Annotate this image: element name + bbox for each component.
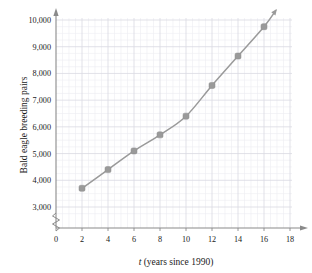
data-point-marker (209, 82, 215, 88)
data-point-marker (79, 185, 85, 191)
y-tick-label: 7,000 (33, 96, 51, 105)
x-tick-label: 10 (182, 235, 190, 244)
x-tick-label: 4 (106, 235, 110, 244)
chart-background (0, 0, 312, 273)
data-point-marker (235, 53, 241, 59)
data-point-marker (131, 148, 137, 154)
y-tick-label: 8,000 (33, 69, 51, 78)
y-tick-label: 5,000 (33, 150, 51, 159)
y-tick-label: 4,000 (33, 176, 51, 185)
y-tick-label: 9,000 (33, 43, 51, 52)
data-point-marker (261, 24, 267, 30)
data-point-marker (157, 132, 163, 138)
x-tick-label: 6 (132, 235, 136, 244)
y-tick-label: 10,000 (28, 16, 51, 25)
y-axis-title: Bald eagle breeding pairs (19, 76, 29, 173)
chart-container: 3,0004,0005,0006,0007,0008,0009,00010,00… (0, 0, 312, 273)
x-tick-label: 12 (208, 235, 216, 244)
data-point-marker (105, 167, 111, 173)
x-tick-label: 0 (54, 235, 58, 244)
y-tick-label: 6,000 (33, 123, 51, 132)
x-tick-label: 8 (158, 235, 162, 244)
data-point-marker (183, 113, 189, 119)
x-tick-label: 18 (286, 235, 294, 244)
x-tick-label: 2 (80, 235, 84, 244)
x-tick-label: 16 (260, 235, 268, 244)
y-tick-label: 3,000 (33, 203, 51, 212)
x-axis-title: t (years since 1990) (139, 257, 214, 268)
x-tick-label: 14 (234, 235, 242, 244)
bald-eagle-line-chart: 3,0004,0005,0006,0007,0008,0009,00010,00… (0, 0, 312, 273)
